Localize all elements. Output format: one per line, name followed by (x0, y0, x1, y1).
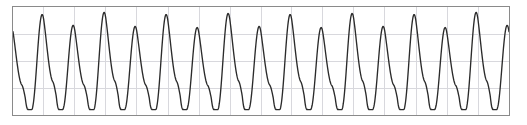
waveform-figure (0, 0, 527, 125)
signal-trace (13, 12, 509, 109)
plot-area (12, 6, 510, 116)
signal-trace-layer (13, 7, 509, 115)
